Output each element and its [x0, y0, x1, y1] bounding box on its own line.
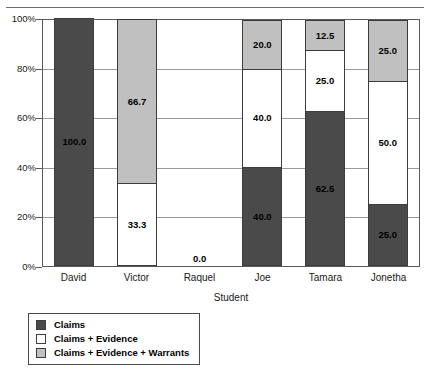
bar-slot: 40.040.020.0	[231, 20, 294, 266]
chart-legend: ClaimsClaims + EvidenceClaims + Evidence…	[28, 313, 200, 365]
legend-swatch-icon	[36, 334, 46, 344]
x-axis-tick-label: Jonetha	[357, 272, 420, 284]
bar-segment[interactable]: 66.7	[117, 19, 157, 184]
legend-item-label: Claims + Evidence	[54, 334, 138, 344]
x-axis-title: Student	[42, 292, 420, 304]
bar-segment-value-label: 40.0	[253, 113, 272, 123]
bar-segment-value-label: 20.0	[253, 40, 272, 50]
bar-stack[interactable]: 33.366.7	[117, 20, 157, 266]
legend-item-label: Claims	[54, 320, 85, 330]
plot-area: 100.033.366.70.040.040.020.062.525.012.5…	[42, 19, 420, 267]
bar-segment-value-label: 66.7	[128, 97, 147, 107]
bar-segment[interactable]: 33.3	[117, 183, 157, 266]
bar-slot: 100.0	[43, 20, 106, 266]
bar-segment[interactable]: 20.0	[242, 20, 282, 70]
bar-slot: 62.525.012.5	[294, 20, 357, 266]
bar-segment-value-label: 25.0	[378, 230, 397, 240]
bar-segment-value-label: 62.5	[316, 184, 335, 194]
bar-group: 100.033.366.70.040.040.020.062.525.012.5…	[43, 20, 419, 266]
bar-segment[interactable]: 25.0	[368, 20, 408, 82]
y-axis-tick-label: 100%	[2, 14, 36, 24]
bar-segment[interactable]: 25.0	[368, 204, 408, 266]
bar-segment[interactable]: 40.0	[242, 167, 282, 266]
legend-swatch-icon	[36, 348, 46, 358]
bar-stack[interactable]: 25.050.025.0	[368, 21, 408, 266]
x-axis-tick-labels: DavidVictorRaquelJoeTamaraJonetha	[42, 272, 420, 284]
bar-segment[interactable]: 40.0	[242, 69, 282, 168]
bar-stack[interactable]: 100.0	[54, 19, 94, 266]
x-axis-tick-label: Victor	[105, 272, 168, 284]
legend-swatch-icon	[36, 320, 46, 330]
y-axis-tick-label: 80%	[2, 64, 36, 74]
bar-segment[interactable]: 100.0	[54, 18, 94, 266]
bar-slot: 0.0	[168, 20, 231, 266]
bar-segment-value-label: 40.0	[253, 212, 272, 222]
bar-segment-value-label: 25.0	[316, 76, 335, 86]
x-axis-tick-label: David	[42, 272, 105, 284]
bar-segment-value-label: 12.5	[316, 31, 335, 41]
bar-stack[interactable]: 40.040.020.0	[242, 21, 282, 266]
x-axis-tick-label: Raquel	[168, 272, 231, 284]
y-axis-tick-label: 20%	[2, 212, 36, 222]
x-axis-tick-label: Joe	[231, 272, 294, 284]
bar-segment-value-label: 25.0	[378, 46, 397, 56]
bar-segment[interactable]: 12.5	[305, 20, 345, 51]
bar-stack[interactable]: 62.525.012.5	[305, 21, 345, 266]
y-axis-tick-label: 0%	[2, 262, 36, 272]
bar-segment-value-label: 100.0	[62, 137, 86, 147]
y-axis-tick-mark	[36, 267, 42, 268]
bar-segment[interactable]: 62.5	[305, 111, 345, 266]
y-axis-tick-label: 40%	[2, 163, 36, 173]
legend-item[interactable]: Claims + Evidence + Warrants	[36, 346, 189, 360]
header-divider-rule	[6, 7, 424, 8]
legend-item-label: Claims + Evidence + Warrants	[54, 348, 189, 358]
bar-slot: 25.050.025.0	[356, 20, 419, 266]
bar-segment-value-label: 33.3	[128, 220, 147, 230]
legend-item[interactable]: Claims	[36, 318, 189, 332]
bar-segment[interactable]: 50.0	[368, 81, 408, 205]
bar-zero-label: 0.0	[193, 254, 206, 264]
legend-item[interactable]: Claims + Evidence	[36, 332, 189, 346]
x-axis-tick-label: Tamara	[294, 272, 357, 284]
bar-segment[interactable]: 25.0	[305, 50, 345, 112]
y-axis-tick-label: 60%	[2, 113, 36, 123]
bar-slot: 33.366.7	[106, 20, 169, 266]
bar-segment-value-label: 50.0	[378, 138, 397, 148]
